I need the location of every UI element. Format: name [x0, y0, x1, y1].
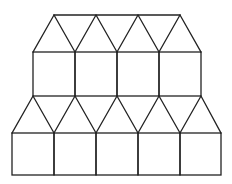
lower-square	[180, 133, 221, 175]
tessellation-diagram	[0, 0, 232, 184]
lower-square	[54, 133, 96, 175]
upper-square	[159, 52, 201, 96]
upper-square	[75, 52, 117, 96]
lower-triangle-row	[12, 96, 221, 133]
upper-triangle-row	[33, 15, 201, 52]
diagram-svg	[0, 0, 232, 184]
lower-square	[138, 133, 180, 175]
upper-square	[117, 52, 159, 96]
lower-square	[96, 133, 138, 175]
lower-square	[12, 133, 54, 175]
upper-square	[33, 52, 75, 96]
